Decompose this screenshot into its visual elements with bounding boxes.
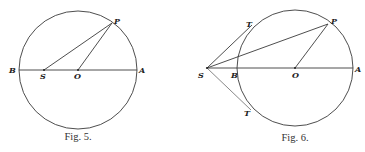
- fig5-label-S: S: [40, 71, 46, 81]
- fig6-label-S: S: [198, 70, 204, 80]
- fig5-line-SP: [44, 23, 112, 70]
- fig6-tangent-ST-lower: [207, 68, 251, 110]
- fig5-line-OP: [78, 23, 112, 70]
- fig6-label-T-upper: T: [246, 19, 253, 29]
- fig6-point-S: [206, 67, 208, 69]
- fig6-label-O: O: [292, 70, 299, 80]
- fig6-point-O: [294, 67, 296, 69]
- fig6-line-SP: [207, 24, 328, 68]
- fig5-label-P: P: [113, 16, 121, 26]
- fig5-label-O: O: [74, 71, 81, 81]
- diagram-canvas: B S O A P Fig. 5. S B O A P T T Fig. 6.: [0, 0, 365, 152]
- figure-6: S B O A P T T Fig. 6.: [198, 10, 361, 143]
- fig6-line-OP: [295, 24, 328, 68]
- fig5-label-B: B: [8, 65, 16, 75]
- fig6-tangent-ST-upper: [207, 25, 252, 68]
- fig6-label-T-lower: T: [244, 108, 251, 118]
- figure-5: B S O A P Fig. 5.: [8, 11, 145, 142]
- fig6-label-A: A: [354, 64, 361, 74]
- fig6-caption: Fig. 6.: [281, 132, 308, 143]
- fig6-label-B: B: [230, 70, 238, 80]
- fig6-label-P: P: [330, 16, 338, 26]
- fig5-label-A: A: [138, 65, 145, 75]
- fig5-caption: Fig. 5.: [64, 131, 91, 142]
